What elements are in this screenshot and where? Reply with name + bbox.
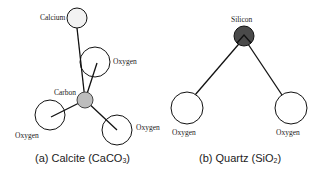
calcite-panel: Calcium Oxygen Carbon Oxygen Oxygen (a) … bbox=[15, 8, 160, 164]
calcium-atom bbox=[67, 8, 87, 28]
bond-silicon-oxygen-right bbox=[244, 38, 282, 95]
oxygen-right-label: Oxygen bbox=[136, 123, 160, 132]
crystal-structure-diagram: Calcium Oxygen Carbon Oxygen Oxygen (a) … bbox=[0, 0, 316, 170]
oxygen-left-quartz-label: Oxygen bbox=[172, 128, 196, 137]
calcite-caption: (a) Calcite (CaCO3) bbox=[35, 152, 130, 164]
bond-silicon-oxygen-left bbox=[195, 38, 244, 95]
bond-calcium-carbon bbox=[77, 28, 85, 100]
carbon-label: Carbon bbox=[54, 88, 76, 97]
silicon-label: Silicon bbox=[231, 15, 253, 24]
oxygen-left-label: Oxygen bbox=[15, 131, 39, 140]
calcium-label: Calcium bbox=[40, 13, 66, 22]
oxygen-atom-left-quartz bbox=[171, 92, 203, 124]
quartz-panel: Silicon Oxygen Oxygen (b) Quartz (SiO2) bbox=[171, 15, 307, 164]
oxygen-atom-right-quartz bbox=[275, 92, 307, 124]
carbon-atom bbox=[77, 92, 93, 108]
oxygen-atom-top bbox=[80, 47, 110, 77]
quartz-caption: (b) Quartz (SiO2) bbox=[199, 152, 281, 164]
oxygen-atom-left bbox=[35, 100, 65, 130]
oxygen-right-quartz-label: Oxygen bbox=[276, 128, 300, 137]
oxygen-top-label: Oxygen bbox=[113, 57, 137, 66]
